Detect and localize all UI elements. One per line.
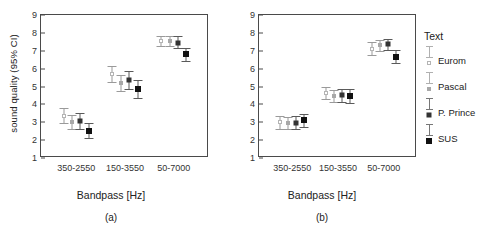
legend-item[interactable]: Pascal: [424, 70, 481, 96]
chart-panel-a: sound quality (95% CI) 123456789350-2550…: [0, 0, 222, 233]
y-tick-label: 5: [32, 82, 41, 92]
y-tick-label: 2: [250, 135, 259, 145]
x-tick-label: 350-2550: [57, 156, 95, 173]
error-bar-cap: [68, 129, 77, 130]
y-tick-label: 6: [32, 64, 41, 74]
error-bar-cap: [375, 40, 384, 41]
error-bar-cap: [76, 113, 85, 114]
x-tick-label: 50-7000: [367, 156, 400, 173]
data-point-marker: [378, 43, 382, 47]
data-point-marker: [339, 93, 344, 98]
error-bar-cap: [133, 80, 142, 81]
y-tick-label: 6: [250, 64, 259, 74]
y-tick-mark: [259, 86, 263, 87]
error-bar-cap: [367, 55, 376, 56]
legend-error-bar: [429, 98, 430, 109]
legend-symbol: [424, 124, 436, 146]
error-bar-cap: [76, 129, 85, 130]
legend-error-bar-cap: [426, 83, 433, 84]
error-bar-cap: [292, 116, 301, 117]
y-axis-label-a: sound quality (95% CI): [8, 19, 19, 149]
legend-symbol: [424, 46, 436, 68]
figure-container: sound quality (95% CI) 123456789350-2550…: [0, 0, 481, 233]
error-bar-cap: [345, 103, 354, 104]
error-bar-cap: [68, 115, 77, 116]
legend-label: Eurom: [438, 55, 466, 66]
legend-error-bar-cap: [426, 124, 433, 125]
y-tick-mark: [259, 15, 263, 16]
legend-marker: [427, 61, 431, 65]
data-point-marker: [385, 41, 390, 46]
y-tick-mark: [41, 122, 45, 123]
data-point-marker: [119, 81, 123, 85]
legend-error-bar: [429, 124, 430, 135]
data-point-marker: [286, 121, 290, 125]
y-tick-mark: [41, 104, 45, 105]
error-bar-cap: [292, 129, 301, 130]
data-point-marker: [168, 39, 172, 43]
y-tick-mark: [41, 140, 45, 141]
y-tick-label: 4: [250, 99, 259, 109]
plot-area-b: 123456789350-2550150-355050-7000: [258, 14, 416, 157]
error-bar-cap: [116, 75, 125, 76]
error-bar-cap: [383, 39, 392, 40]
legend-item[interactable]: Eurom: [424, 44, 481, 70]
data-point-marker: [70, 120, 74, 124]
error-bar-cap: [133, 98, 142, 99]
y-tick-label: 3: [250, 117, 259, 127]
error-bar-cap: [375, 51, 384, 52]
error-bar-cap: [367, 42, 376, 43]
error-bar-cap: [182, 48, 191, 49]
y-tick-label: 8: [250, 28, 259, 38]
legend-error-bar-cap: [426, 109, 433, 110]
x-tick-label: 50-7000: [157, 156, 190, 173]
data-point-marker: [183, 51, 189, 57]
data-point-marker: [78, 119, 83, 124]
legend: Text EuromPascalP. PrinceSUS: [424, 30, 481, 148]
legend-error-bar: [429, 46, 430, 57]
error-bar-cap: [59, 123, 68, 124]
legend-item[interactable]: SUS: [424, 122, 481, 148]
legend-entries: EuromPascalP. PrinceSUS: [424, 44, 481, 148]
panel-letter-b: (b): [222, 212, 422, 223]
y-tick-mark: [41, 50, 45, 51]
legend-error-bar-cap: [426, 57, 433, 58]
y-tick-mark: [259, 32, 263, 33]
y-tick-label: 9: [32, 10, 41, 20]
x-tick-label: 150-3550: [319, 156, 357, 173]
legend-error-bar-cap: [426, 72, 433, 73]
y-tick-label: 8: [32, 28, 41, 38]
chart-panel-b: 123456789350-2550150-355050-7000 Bandpas…: [222, 0, 422, 233]
error-bar-cap: [322, 87, 331, 88]
error-bar-cap: [108, 66, 117, 67]
data-point-marker: [159, 39, 163, 43]
legend-error-bar-cap: [426, 46, 433, 47]
error-bar-cap: [173, 36, 182, 37]
legend-label: SUS: [438, 133, 458, 144]
error-bar-cap: [391, 63, 400, 64]
data-point-marker: [86, 128, 92, 134]
error-bar-cap: [84, 123, 93, 124]
data-point-marker: [175, 40, 180, 45]
data-point-marker: [294, 121, 299, 126]
data-point-marker: [301, 117, 307, 123]
error-bar-cap: [345, 89, 354, 90]
y-tick-mark: [259, 158, 263, 159]
y-tick-mark: [259, 140, 263, 141]
error-bar-cap: [116, 91, 125, 92]
legend-error-bar-cap: [426, 98, 433, 99]
legend-item[interactable]: P. Prince: [424, 96, 481, 122]
data-point-marker: [393, 54, 399, 60]
y-tick-mark: [259, 50, 263, 51]
data-point-marker: [135, 86, 141, 92]
data-point-marker: [110, 72, 114, 76]
data-point-marker: [332, 94, 336, 98]
legend-error-bar: [429, 72, 430, 83]
error-bar-cap: [59, 108, 68, 109]
error-bar-cap: [330, 90, 339, 91]
x-tick-label: 350-2550: [273, 156, 311, 173]
error-bar-cap: [125, 71, 134, 72]
data-point-marker: [278, 120, 282, 124]
y-tick-label: 7: [250, 46, 259, 56]
error-bar-cap: [84, 138, 93, 139]
